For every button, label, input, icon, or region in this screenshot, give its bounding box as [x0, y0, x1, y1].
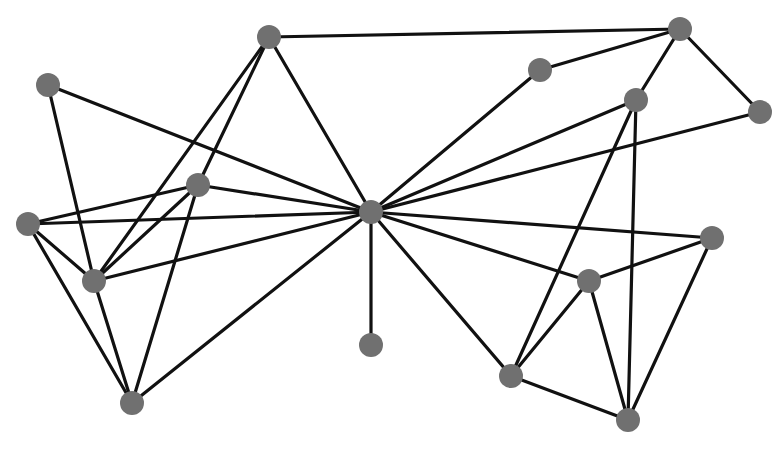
edge-A-C	[198, 37, 269, 185]
node-O	[577, 269, 601, 293]
edge-layer	[28, 29, 760, 420]
node-J	[668, 17, 692, 41]
edge-B-E	[48, 85, 94, 281]
node-layer	[16, 17, 772, 432]
edge-A-J	[269, 29, 680, 37]
node-P	[499, 364, 523, 388]
node-C	[186, 173, 210, 197]
node-N	[700, 226, 724, 250]
node-E	[82, 269, 106, 293]
edge-H-L	[371, 100, 636, 212]
edge-B-H	[48, 85, 371, 212]
network-graph	[0, 0, 784, 449]
edge-A-H	[269, 37, 371, 212]
edge-L-Q	[628, 100, 636, 420]
edge-E-F	[94, 281, 132, 403]
node-B	[36, 73, 60, 97]
edge-H-N	[371, 212, 712, 238]
node-H	[359, 200, 383, 224]
edge-P-Q	[511, 376, 628, 420]
edge-L-P	[511, 100, 636, 376]
node-K	[528, 58, 552, 82]
node-A	[257, 25, 281, 49]
edge-C-H	[198, 185, 371, 212]
node-Q	[616, 408, 640, 432]
node-M	[748, 100, 772, 124]
node-L	[624, 88, 648, 112]
edge-H-O	[371, 212, 589, 281]
node-D	[16, 212, 40, 236]
edge-O-Q	[589, 281, 628, 420]
node-F	[120, 391, 144, 415]
node-I	[359, 333, 383, 357]
edge-O-P	[511, 281, 589, 376]
edge-J-M	[680, 29, 760, 112]
edge-N-Q	[628, 238, 712, 420]
edge-H-P	[371, 212, 511, 376]
